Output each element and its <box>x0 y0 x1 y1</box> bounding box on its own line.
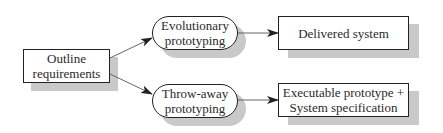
node-label-line1: Executable prototype + <box>283 85 404 100</box>
node-label-line2: requirements <box>33 66 101 81</box>
node-label-line2: prototyping <box>161 33 229 48</box>
node-label-line2: System specification <box>283 100 404 115</box>
evolutionary-prototyping-node: Evolutionary prototyping <box>152 16 238 50</box>
node-label-line1: Delivered system <box>298 26 389 41</box>
throwaway-prototyping-node: Throw-away prototyping <box>152 84 238 118</box>
node-label-line1: Outline <box>33 51 101 66</box>
edge-outline-to-throwaway <box>110 74 152 94</box>
delivered-system-node: Delivered system <box>278 16 409 50</box>
edge-outline-to-evolutionary <box>110 38 152 58</box>
node-label-line1: Throw-away <box>162 86 228 101</box>
node-label-line2: prototyping <box>162 101 228 116</box>
executable-prototype-node: Executable prototype + System specificat… <box>278 83 409 117</box>
node-label-line1: Evolutionary <box>161 18 229 33</box>
outline-requirements-node: Outline requirements <box>23 49 110 83</box>
